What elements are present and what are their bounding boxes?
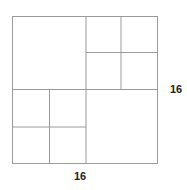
quadtree-diagram: [0, 0, 187, 190]
height-label: 16: [170, 83, 182, 95]
width-label: 16: [74, 170, 86, 182]
